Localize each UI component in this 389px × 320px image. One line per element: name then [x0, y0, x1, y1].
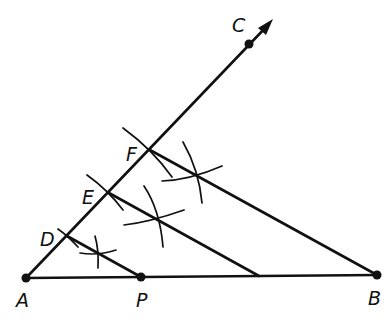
label-a: A	[14, 289, 29, 311]
geometric-construction-diagram: A P B C D E F	[0, 0, 389, 320]
point-c	[245, 40, 254, 49]
point-a	[22, 274, 31, 283]
label-b: B	[368, 287, 381, 309]
ray-ac	[26, 25, 268, 278]
point-b	[373, 271, 382, 280]
label-p: P	[136, 289, 148, 311]
label-f: F	[126, 143, 138, 165]
segment-dp	[67, 236, 141, 277]
label-d: D	[40, 228, 55, 250]
segment-ab	[26, 275, 377, 278]
segment-e-parallel	[109, 193, 259, 276]
label-c: C	[232, 14, 246, 36]
point-p	[137, 273, 146, 282]
arc-d	[58, 229, 78, 247]
segment-fb	[150, 150, 377, 275]
label-e: E	[82, 186, 94, 208]
